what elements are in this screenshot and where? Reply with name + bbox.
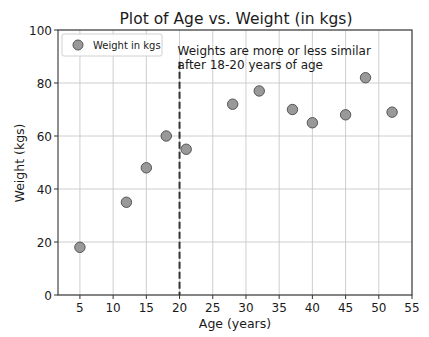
x-tick-label: 5 [76,301,84,315]
data-point [287,104,297,114]
x-tick-label: 40 [305,301,320,315]
x-tick-label: 30 [238,301,253,315]
data-point [340,110,350,120]
annotation-line: after 18-20 years of age [178,58,323,72]
x-tick-label: 45 [338,301,353,315]
data-point [387,107,397,117]
x-axis-label: Age (years) [199,316,271,331]
x-tick-label: 10 [105,301,120,315]
data-point [121,197,131,207]
data-point [360,73,370,83]
data-point [307,118,317,128]
x-tick-label: 35 [272,301,287,315]
x-axis-ticks: 510152025303540455055 [76,295,420,315]
data-point [227,99,237,109]
scatter-chart: Plot of Age vs. Weight (in kgs) 51015202… [0,0,429,337]
y-axis-ticks: 020406080100 [29,24,58,303]
x-tick-label: 55 [404,301,419,315]
y-tick-label: 80 [37,77,52,91]
x-tick-label: 25 [205,301,220,315]
y-tick-label: 20 [37,236,52,250]
y-tick-label: 40 [37,183,52,197]
y-tick-label: 0 [44,289,52,303]
x-tick-label: 15 [139,301,154,315]
data-point [75,242,85,252]
x-tick-label: 50 [371,301,386,315]
legend: Weight in kgs [62,34,162,56]
y-axis-label: Weight (kgs) [12,124,27,203]
data-point [161,131,171,141]
data-points [75,73,398,253]
legend-marker-icon [73,40,83,50]
data-point [141,163,151,173]
chart-title: Plot of Age vs. Weight (in kgs) [120,10,353,28]
y-tick-label: 60 [37,130,52,144]
y-tick-label: 100 [29,24,52,38]
legend-label: Weight in kgs [93,40,161,51]
data-point [254,86,264,96]
annotation-line: Weights are more or less similar [178,44,371,58]
x-tick-label: 20 [172,301,187,315]
annotation-text: Weights are more or less similarafter 18… [178,44,371,72]
data-point [181,144,191,154]
